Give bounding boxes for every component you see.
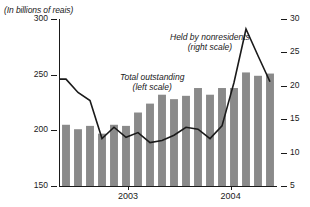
x-axis-tick-label: 2003 bbox=[98, 191, 158, 201]
y-axis-left-tick-label: 200 bbox=[18, 124, 48, 134]
y-axis-left-tick-label: 250 bbox=[18, 69, 48, 79]
y-axis-left-tick-mark bbox=[51, 75, 57, 76]
y-axis-right-tick-mark bbox=[281, 52, 287, 53]
line-series-layer bbox=[0, 0, 310, 207]
y-axis-left-tick-label: 150 bbox=[18, 180, 48, 190]
x-axis-tick-label: 2004 bbox=[201, 191, 261, 201]
y-axis-right-tick-mark bbox=[281, 86, 287, 87]
y-axis-left-tick-mark bbox=[51, 186, 57, 187]
y-axis-left-tick-mark bbox=[51, 130, 57, 131]
x-axis-tick-mark bbox=[231, 186, 232, 190]
chart-figure: Brazil (In billions of reais) Total outs… bbox=[0, 0, 310, 207]
y-axis-right-tick-mark bbox=[281, 119, 287, 120]
y-axis-right-tick-mark bbox=[281, 153, 287, 154]
y-axis-right-tick-label: 20 bbox=[290, 80, 310, 90]
x-axis-tick-mark bbox=[128, 186, 129, 190]
y-axis-right-tick-mark bbox=[281, 19, 287, 20]
y-axis-right-tick-label: 25 bbox=[290, 46, 310, 56]
y-axis-left-tick-mark bbox=[51, 19, 57, 20]
y-axis-right-tick-mark bbox=[281, 186, 287, 187]
y-axis-right-tick-label: 10 bbox=[290, 147, 310, 157]
y-axis-left-tick-label: 300 bbox=[18, 13, 48, 23]
y-axis-right-tick-label: 5 bbox=[290, 180, 310, 190]
line-series-held-by-nonresidents bbox=[60, 29, 270, 143]
y-axis-right-tick-label: 30 bbox=[290, 13, 310, 23]
y-axis-right-tick-label: 15 bbox=[290, 113, 310, 123]
